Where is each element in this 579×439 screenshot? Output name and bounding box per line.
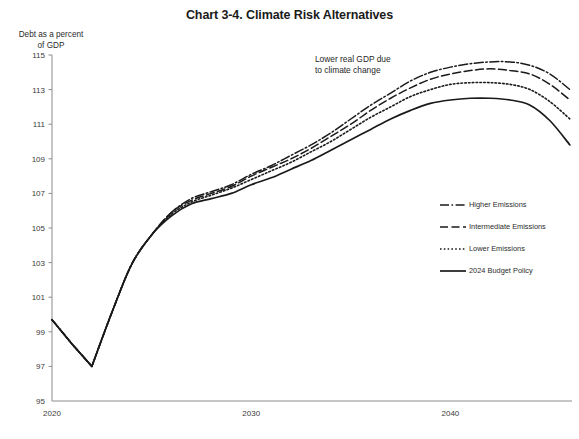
series-line-2024-budget-policy [52,98,570,366]
y-tick-label: 101 [32,293,46,302]
lower-real-gdp-note-line-2: to climate change [315,65,381,75]
x-tick-label: 2030 [242,409,260,418]
legend-label-2024-budget-policy: 2024 Budget Policy [469,266,533,275]
series-lines [52,62,570,367]
y-tick-label: 105 [32,224,46,233]
y-tick-label: 113 [32,86,45,95]
y-axis-ticks: 959799101103105107109111113115 [32,51,52,406]
series-line-intermediate-emissions [52,69,570,367]
y-tick-label: 107 [32,189,46,198]
x-tick-label: 2020 [43,409,61,418]
y-tick-label: 111 [33,120,46,129]
y-tick-label: 95 [36,397,45,406]
y-tick-label: 109 [32,155,46,164]
y-tick-label: 99 [36,328,45,337]
x-axis-ticks: 202020302040 [43,409,460,418]
legend-label-intermediate-emissions: Intermediate Emissions [469,222,546,231]
legend-label-lower-emissions: Lower Emissions [469,244,525,253]
y-tick-label: 115 [32,51,45,60]
y-tick-label: 103 [32,259,46,268]
y-tick-label: 97 [36,362,45,371]
series-line-higher-emissions [52,62,570,367]
chart-annotations: Lower real GDP dueto climate change [315,54,391,76]
chart-figure: Chart 3-4. Climate Risk Alternatives Deb… [0,0,579,439]
lower-real-gdp-note-line-1: Lower real GDP due [315,54,391,64]
chart-legend: Higher EmissionsIntermediate EmissionsLo… [440,200,546,275]
legend-label-higher-emissions: Higher Emissions [469,200,527,209]
chart-plot-area: 959799101103105107109111113115 202020302… [0,0,579,439]
x-tick-label: 2040 [442,409,460,418]
